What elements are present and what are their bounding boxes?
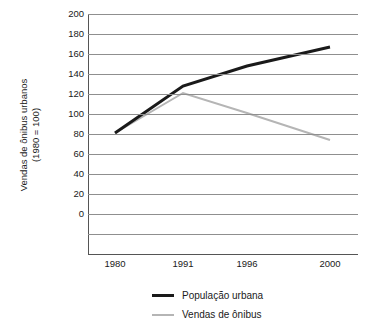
y-axis-title: Vendas de ônibus urbanos (1980 = 100) [18,79,42,192]
gridline [88,174,358,175]
legend-label: Vendas de ônibus [182,309,262,320]
y-tick-label: 160 [54,49,84,59]
legend-swatch-icon [152,294,174,297]
chart-legend: População urbanaVendas de ônibus [0,290,370,328]
series-line [115,93,330,140]
y-tick-label: 180 [54,29,84,39]
y-tick-label: 80 [54,129,84,139]
plot-area [88,14,358,254]
y-tick-label: 60 [54,149,84,159]
gridline [88,74,358,75]
legend-swatch-icon [152,314,174,316]
gridline [88,154,358,155]
legend-item[interactable]: População urbana [0,290,370,301]
y-axis-title-wrap: Vendas de ônibus urbanos (1980 = 100) [0,0,60,270]
gridline [88,54,358,55]
gridline [88,194,358,195]
x-axis-tick-labels: 1980199119962000 [0,259,370,275]
y-tick-label: 200 [54,9,84,19]
y-tick-label: 0 [54,209,84,219]
gridline [88,134,358,135]
legend-item[interactable]: Vendas de ônibus [0,309,370,320]
x-tick-label: 1996 [236,259,257,269]
gridline [88,214,358,215]
x-tick-label: 1980 [104,259,125,269]
x-tick-label: 1991 [172,259,193,269]
legend-label: População urbana [182,290,263,301]
x-tick-label: 2000 [319,259,340,269]
y-tick-label: 140 [54,69,84,79]
y-tick-label: 40 [54,169,84,179]
gridline [88,114,358,115]
gridline [88,254,358,255]
y-axis-title-line1: Vendas de ônibus urbanos [18,79,29,192]
y-axis-title-line2: (1980 = 100) [30,108,41,162]
y-tick-label: 120 [54,89,84,99]
gridline [88,34,358,35]
y-tick-label: 100 [54,109,84,119]
gridline [88,14,358,15]
y-axis-tick-labels: 200180160140120100806040200 [52,0,84,280]
gridline [88,234,358,235]
chart-figure: Vendas de ônibus urbanos (1980 = 100) 20… [0,0,370,335]
series-line [115,47,330,133]
y-tick-label: 20 [54,189,84,199]
gridline [88,94,358,95]
